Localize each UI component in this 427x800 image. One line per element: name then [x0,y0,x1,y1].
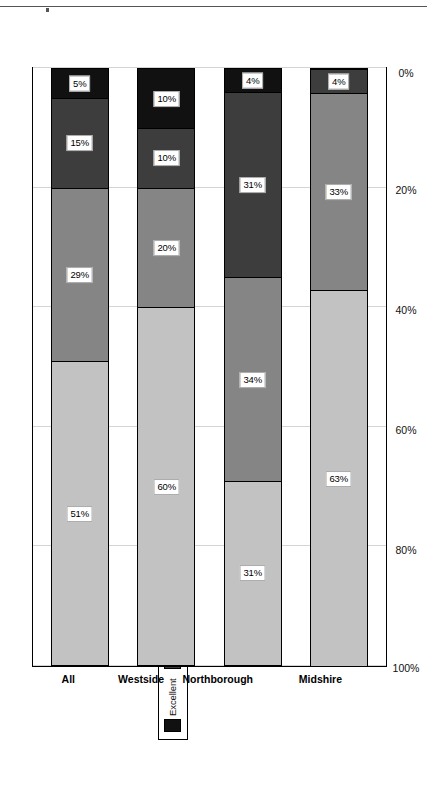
category-axis-label: Northborough [182,673,253,685]
axis-tick-label: 20% [395,184,416,196]
axis-tick-label: 40% [395,304,416,316]
category-axis: AllWestsideNorthboroughMidshire [32,673,387,745]
bar-segment: 15% [51,98,109,188]
bar-segment: 63% [309,290,367,667]
category-axis-label: All [61,673,74,685]
bar-segment-label: 4% [328,74,349,90]
stacked-bar-chart: ExcellentPositiveAdequateLimited AllWest… [14,55,414,745]
bar-segment-label: 4% [241,73,262,89]
bar-segment: 4% [309,69,367,93]
bar-segment: 5% [51,68,109,98]
axis-tick-label: 60% [395,424,416,436]
bar-segment-label: 20% [153,240,179,256]
bar-segment: 31% [223,92,281,277]
bar-segment-label: 15% [66,135,92,151]
bar-series-container: 5%15%29%51%10%10%20%60%4%31%34%31%0%4%33… [33,68,386,666]
chart-rotation-wrapper: ExcellentPositiveAdequateLimited AllWest… [0,0,427,800]
bar-segment: 10% [137,128,195,188]
bar-segment: 29% [51,188,109,361]
bar-row: 10%10%20%60% [137,68,195,666]
bar-segment-label: 31% [239,177,265,193]
plot-area: 5%15%29%51%10%10%20%60%4%31%34%31%0%4%33… [32,67,387,667]
bar-segment-label: 63% [325,471,351,487]
bar-segment: 34% [223,277,281,480]
bar-row: 4%31%34%31% [223,68,281,666]
category-axis-label: Midshire [298,673,341,685]
bar-segment-label: 60% [153,479,179,495]
bar-segment: 10% [137,68,195,128]
bar-segment-label: 33% [325,184,351,200]
bar-segment: 51% [51,361,109,666]
bar-segment-label: 5% [69,76,90,92]
bar-segment: 4% [223,68,281,92]
bar-segment: 20% [137,188,195,308]
bar-segment: 60% [137,307,195,666]
bar-segment-label: 34% [239,372,265,388]
axis-tick-label: 100% [392,662,419,674]
bar-segment-label: 29% [66,267,92,283]
bar-segment-label: 31% [239,566,265,582]
value-axis: 100%80%60%40%20%0% [390,67,427,667]
bar-segment-label: 10% [153,150,179,166]
bar-row: 0%4%33%63% [309,68,367,666]
category-axis-label: Westside [118,673,164,685]
axis-tick-label: 80% [395,544,416,556]
bar-segment-label: 10% [153,91,179,107]
bar-segment-label: 51% [66,506,92,522]
bar-segment: 33% [309,93,367,290]
axis-tick-label: 0% [398,67,413,79]
bar-row: 5%15%29%51% [51,68,109,666]
bar-segment: 31% [223,481,281,666]
